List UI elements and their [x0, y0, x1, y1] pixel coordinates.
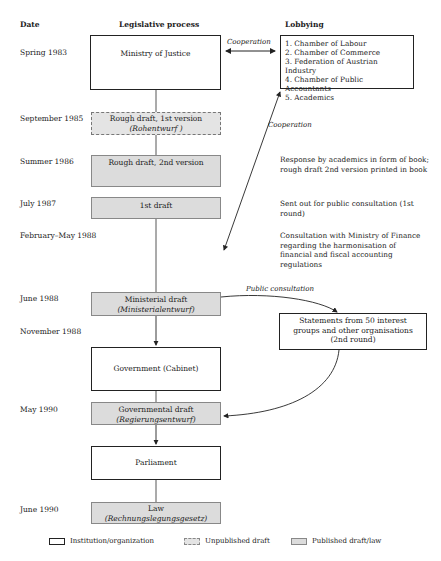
legend-published-label: Published draft/law: [312, 537, 381, 545]
box-parliament: Parliament: [91, 446, 221, 480]
ministerial-draft-subtitle: (Ministerialentwurf): [92, 305, 220, 315]
1st-draft-title: 1st draft: [92, 201, 220, 211]
law-subtitle: (Rechnungslegungsgesetz): [92, 514, 220, 524]
ministry-label: Ministry of Justice: [121, 49, 191, 58]
date-july-1987: July 1987: [20, 199, 56, 208]
box-ministerial-draft: Ministerial draft (Ministerialentwurf): [91, 292, 221, 316]
label-cooperation-diagonal: Cooperation: [268, 121, 312, 129]
legend-published: Published draft/law: [291, 537, 381, 545]
date-spring-1983: Spring 1983: [20, 48, 67, 57]
box-ministry-of-justice: Ministry of Justice: [90, 35, 221, 90]
header-legislative-process: Legislative process: [119, 20, 199, 29]
lobby-group-item: 5. Academics: [285, 93, 409, 102]
date-september-1985: September 1985: [20, 114, 83, 123]
governmental-draft-title: Governmental draft: [92, 405, 220, 415]
date-june-1990: June 1990: [20, 505, 59, 514]
box-government-cabinet: Government (Cabinet): [91, 347, 221, 391]
government-label: Government (Cabinet): [92, 364, 220, 374]
rough-draft-1-subtitle: (Rohentwurf ): [92, 124, 220, 134]
legend-unpublished-swatch: [184, 538, 200, 545]
parliament-label: Parliament: [92, 458, 220, 468]
box-governmental-draft: Governmental draft (Regierungsentwurf): [91, 402, 221, 425]
box-1st-draft: 1st draft: [91, 197, 221, 219]
date-feb-may-1988: February–May 1988: [20, 231, 96, 240]
lobby-group-item: 4. Chamber of Public Accountants: [285, 75, 409, 93]
legend-institution: Institution/organization: [49, 537, 154, 545]
legend-unpublished-label: Unpublished draft: [205, 537, 270, 545]
legend-unpublished: Unpublished draft: [184, 537, 270, 545]
governmental-draft-subtitle: (Regierungsentwurf): [92, 415, 220, 425]
box-statements: Statements from 50 interest groups and o…: [279, 313, 427, 350]
note-academics-response: Response by academics in form of book; r…: [280, 155, 430, 174]
rough-draft-1-title: Rough draft, 1st version: [92, 114, 220, 124]
ministerial-draft-title: Ministerial draft: [92, 295, 220, 305]
label-public-consultation: Public consultation: [246, 285, 314, 293]
legend-institution-label: Institution/organization: [70, 537, 154, 545]
lobby-group-item: 1. Chamber of Labour: [285, 39, 409, 48]
date-summer-1986: Summer 1986: [20, 157, 74, 166]
statements-text: Statements from 50 interest groups and o…: [290, 316, 416, 345]
box-rough-draft-1: Rough draft, 1st version (Rohentwurf ): [91, 112, 221, 135]
box-law: Law (Rechnungslegungsgesetz): [91, 502, 221, 524]
header-date: Date: [20, 20, 40, 29]
legend-institution-swatch: [49, 538, 65, 545]
rough-draft-2-title: Rough draft, 2nd version: [92, 158, 220, 168]
lobby-group-item: 3. Federation of Austrian Industry: [285, 57, 409, 75]
label-cooperation-top: Cooperation: [227, 38, 271, 46]
header-lobbying: Lobbying: [285, 20, 324, 29]
date-november-1988: November 1988: [20, 327, 81, 336]
legend-published-swatch: [291, 538, 307, 545]
date-june-1988: June 1988: [20, 294, 59, 303]
lobby-group-item: 2. Chamber of Commerce: [285, 48, 409, 57]
box-rough-draft-2: Rough draft, 2nd version: [91, 155, 221, 187]
note-ministry-of-finance: Consultation with Ministry of Finance re…: [280, 231, 428, 269]
note-public-consultation-1: Sent out for public consultation (1st ro…: [280, 199, 420, 218]
date-may-1990: May 1990: [20, 405, 58, 414]
box-lobbying-groups: 1. Chamber of Labour 2. Chamber of Comme…: [280, 35, 414, 89]
law-title: Law: [92, 504, 220, 514]
